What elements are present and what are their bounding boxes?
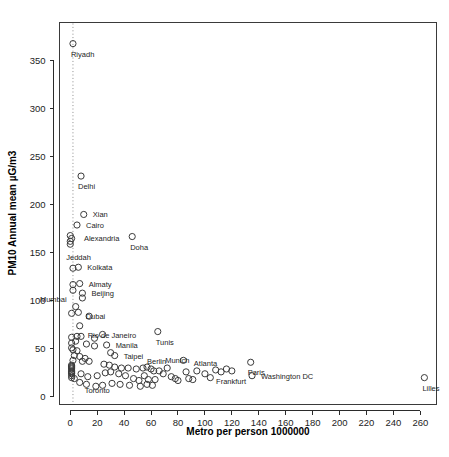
data-point: [75, 309, 81, 315]
y-tick-label: 50: [35, 343, 46, 354]
point-label: Rio de Janeiro: [88, 331, 136, 340]
data-point: [69, 310, 75, 316]
y-tick-label: 250: [30, 151, 46, 162]
x-tick-label: 80: [173, 417, 184, 428]
point-label: Berlin: [147, 357, 166, 366]
x-axis-title: Metro per person 1000000: [186, 426, 310, 437]
y-tick-label: 300: [30, 103, 46, 114]
data-point: [85, 374, 91, 380]
point-label: Manila: [116, 341, 139, 350]
data-point: [125, 365, 131, 371]
data-point: [109, 380, 115, 386]
point-label: Almaty: [89, 280, 112, 289]
data-point: [83, 341, 89, 347]
point-label: Cairo: [86, 221, 104, 230]
x-tick-label: 0: [68, 417, 73, 428]
data-point: [136, 377, 142, 383]
point-label: Washington DC: [261, 372, 314, 381]
plot-canvas: 020406080100120140160180200220240260 050…: [0, 0, 449, 457]
point-label: Kolkata: [87, 263, 113, 272]
data-point: [70, 347, 76, 353]
point-labels: RiyadhDelhiXianCairoAlexandriaJeddahDoha…: [40, 50, 440, 396]
data-point: [248, 359, 254, 365]
data-point: [91, 343, 97, 349]
point-label: Alexandria: [84, 234, 120, 243]
y-tick-label: 0: [40, 391, 45, 402]
data-point: [104, 342, 110, 348]
point-label: Riyadh: [71, 50, 94, 59]
point-label: Doha: [130, 243, 149, 252]
point-label: Xian: [93, 210, 108, 219]
y-axis: 050100150200250300350: [30, 55, 54, 402]
point-label: Atlanta: [194, 359, 218, 368]
data-point: [155, 328, 161, 334]
x-axis: 020406080100120140160180200220240260: [68, 411, 429, 428]
y-tick-label: 150: [30, 247, 46, 258]
data-point: [78, 173, 84, 179]
point-label: Munich: [165, 356, 189, 365]
data-point: [74, 222, 80, 228]
data-point: [140, 365, 146, 371]
x-tick-label: 220: [359, 417, 375, 428]
point-label: Delhi: [78, 182, 95, 191]
data-point: [202, 371, 208, 377]
data-point: [77, 379, 83, 385]
data-point: [116, 371, 122, 377]
data-point: [118, 365, 124, 371]
x-tick-label: 40: [119, 417, 130, 428]
data-point: [81, 211, 87, 217]
point-label: Jeddah: [66, 253, 91, 262]
point-label: Lilles: [422, 384, 439, 393]
data-point: [133, 366, 139, 372]
data-point: [421, 375, 427, 381]
data-point: [186, 375, 192, 381]
point-label: Dubai: [86, 312, 106, 321]
data-point: [122, 373, 128, 379]
data-point: [117, 381, 123, 387]
data-point: [77, 280, 83, 286]
data-point: [152, 376, 158, 382]
point-label: Taipei: [124, 352, 144, 361]
point-label: Beijing: [91, 289, 114, 298]
x-tick-label: 20: [92, 417, 103, 428]
data-point: [190, 376, 196, 382]
data-point: [194, 368, 200, 374]
data-point: [78, 371, 84, 377]
x-tick-label: 200: [332, 417, 348, 428]
data-point: [229, 368, 235, 374]
data-point: [137, 383, 143, 389]
data-point: [129, 233, 135, 239]
point-label: Frankfurt: [216, 377, 247, 386]
data-point: [183, 369, 189, 375]
x-tick-label: 240: [385, 417, 401, 428]
y-tick-label: 200: [30, 199, 46, 210]
x-tick-label: 260: [412, 417, 428, 428]
data-point: [94, 373, 100, 379]
y-tick-label: 350: [30, 55, 46, 66]
data-point: [126, 382, 132, 388]
data-point: [77, 323, 83, 329]
data-point: [78, 333, 84, 339]
data-point: [73, 304, 79, 310]
data-point: [207, 375, 213, 381]
scatter-plot-figure: 020406080100120140160180200220240260 050…: [0, 0, 449, 457]
data-point: [141, 373, 147, 379]
y-axis-title: PM10 Annual mean µG/m3: [7, 150, 18, 275]
point-label: Mumbai: [40, 295, 67, 304]
point-label: Toronto: [85, 386, 110, 395]
x-tick-label: 60: [146, 417, 157, 428]
point-label: Tunis: [156, 338, 174, 347]
